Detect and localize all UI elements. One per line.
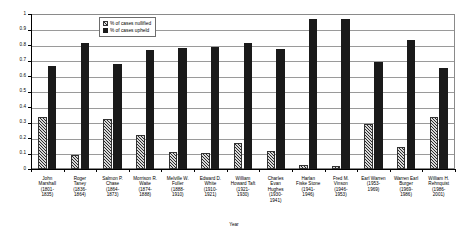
x-tick-mark <box>357 169 358 172</box>
bar-group <box>325 14 358 169</box>
bar-group <box>357 14 390 169</box>
x-tick-mark <box>390 169 391 172</box>
bar-upheld <box>178 48 187 169</box>
bar-upheld <box>439 68 448 169</box>
x-tick-mark <box>161 169 162 172</box>
chart-container: 00.10.20.30.40.50.60.70.80.91 Number Joh… <box>0 0 468 239</box>
bar-upheld <box>374 62 383 169</box>
bar-nullified <box>397 147 406 169</box>
y-tick-label: 0.6 <box>20 74 26 79</box>
y-tick-label: 0.2 <box>20 136 26 141</box>
bar-upheld <box>48 66 57 169</box>
x-tick-label-line: 1953) <box>313 192 368 197</box>
bar-nullified <box>234 143 243 169</box>
bar-upheld <box>244 43 253 169</box>
bar-group <box>422 14 455 169</box>
y-tick-label: 0.3 <box>20 120 26 125</box>
bar-group <box>31 14 64 169</box>
x-tick-label: William H.Rehnquist(1986-2001) <box>411 176 466 198</box>
bar-group <box>227 14 260 169</box>
y-tick-label: 0.5 <box>20 89 26 94</box>
bar-nullified <box>267 151 276 169</box>
bar-upheld <box>276 49 285 169</box>
y-tick-label: 0.7 <box>20 58 26 63</box>
bar-nullified <box>201 153 210 169</box>
bar-nullified <box>38 117 47 169</box>
legend-label-nullified: % of cases nullified <box>110 21 151 26</box>
x-tick-mark <box>455 169 456 172</box>
legend-swatch-nullified-icon <box>103 21 108 26</box>
bar-nullified <box>364 124 373 169</box>
bar-upheld <box>113 64 122 169</box>
legend-swatch-upheld-icon <box>103 28 108 33</box>
bar-upheld <box>341 19 350 169</box>
x-tick-mark <box>64 169 65 172</box>
bar-nullified <box>169 152 178 169</box>
bar-group <box>292 14 325 169</box>
bar-nullified <box>430 117 439 169</box>
bar-group <box>194 14 227 169</box>
y-tick-label: 0.4 <box>20 105 26 110</box>
y-tick-label: 1 <box>23 12 26 17</box>
x-tick-label-line: 2001) <box>411 192 466 197</box>
bar-upheld <box>309 19 318 169</box>
x-tick-mark <box>96 169 97 172</box>
x-axis-title: Year <box>0 222 468 227</box>
y-tick-label: 0 <box>23 167 26 172</box>
y-tick-label: 0.9 <box>20 27 26 32</box>
bar-group <box>96 14 129 169</box>
legend-item-upheld: % of cases upheld <box>103 27 151 34</box>
x-tick-mark <box>31 169 32 172</box>
x-axis-line <box>31 169 455 170</box>
x-tick-mark <box>227 169 228 172</box>
bar-group <box>390 14 423 169</box>
x-tick-mark <box>194 169 195 172</box>
bar-nullified <box>103 119 112 169</box>
x-tick-mark <box>292 169 293 172</box>
bar-nullified <box>71 155 80 169</box>
bar-group <box>129 14 162 169</box>
bar-group <box>64 14 97 169</box>
bar-nullified <box>136 135 145 169</box>
x-tick-mark <box>259 169 260 172</box>
y-tick-label: 0.1 <box>20 151 26 156</box>
x-tick-mark <box>422 169 423 172</box>
x-tick-mark <box>129 169 130 172</box>
bar-upheld <box>211 47 220 169</box>
y-tick-label: 0.8 <box>20 43 26 48</box>
bar-group <box>161 14 194 169</box>
bar-upheld <box>146 50 155 169</box>
x-tick-label-line: 1941) <box>248 198 303 203</box>
bar-group <box>259 14 292 169</box>
bars-layer <box>31 14 455 169</box>
bar-upheld <box>407 40 416 169</box>
legend-label-upheld: % of cases upheld <box>110 28 149 33</box>
chart-legend: % of cases nullified % of cases upheld <box>99 17 156 37</box>
x-tick-mark <box>325 169 326 172</box>
legend-item-nullified: % of cases nullified <box>103 20 151 27</box>
bar-upheld <box>81 43 90 169</box>
